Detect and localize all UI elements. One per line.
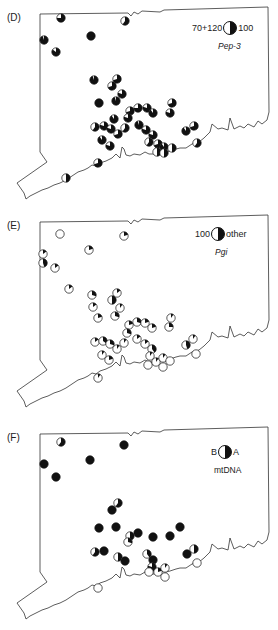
site-pie-marker [86, 456, 94, 464]
legend-title: Pgi [215, 247, 227, 257]
site-pie-marker [113, 289, 121, 297]
site-pie-marker [65, 285, 73, 293]
connecticut-outline [17, 215, 269, 407]
site-pie-marker [182, 341, 190, 349]
site-pie-marker [88, 291, 96, 299]
site-pie-marker [108, 506, 116, 514]
site-pie-marker [111, 312, 119, 320]
site-pie-marker [125, 321, 133, 329]
site-pie-marker [124, 114, 132, 122]
site-pie-marker [121, 124, 129, 132]
site-pie-marker [95, 99, 103, 107]
site-pie-marker [105, 356, 113, 364]
site-pie-marker [160, 149, 168, 157]
site-pie-marker [87, 32, 95, 40]
site-pie-marker [165, 323, 173, 331]
site-pie-marker [52, 473, 60, 481]
site-pie-marker [39, 259, 47, 267]
site-pie-marker [106, 340, 114, 348]
legend-right-label: A [233, 447, 239, 457]
site-pie-marker [149, 109, 157, 117]
site-pie-marker [189, 335, 197, 343]
site-pie-marker [90, 76, 98, 84]
site-pie-marker [100, 547, 108, 555]
site-pie-marker [161, 564, 169, 572]
connecticut-outline [17, 7, 269, 199]
site-pie-marker [118, 90, 126, 98]
site-pie-marker [85, 246, 93, 254]
map-panel-d: (D) 70+120 100 Pep-3 [0, 0, 278, 210]
site-pie-marker [110, 115, 118, 123]
site-pie-marker [57, 438, 65, 446]
site-pie-marker [39, 250, 47, 258]
legend-left-label: 100 [195, 229, 210, 239]
site-pie-marker [114, 499, 122, 507]
site-pie-marker [57, 14, 65, 22]
legend-right-label: 100 [238, 23, 253, 33]
site-pie-marker [193, 139, 201, 147]
site-pie-marker [176, 523, 184, 531]
site-pie-marker [144, 361, 152, 369]
legend-half-pie-icon [218, 445, 232, 459]
site-pie-marker [89, 303, 97, 311]
site-pie-marker [167, 314, 175, 322]
site-pie-marker [91, 338, 99, 346]
site-pie-marker [192, 350, 200, 358]
site-pie-marker [120, 232, 128, 240]
site-pie-marker [166, 109, 174, 117]
site-pie-marker [145, 138, 153, 146]
panel-label: (E) [7, 220, 20, 231]
site-pie-marker [112, 523, 120, 531]
site-pie-marker [94, 374, 102, 382]
legend-right-label: other [226, 229, 247, 239]
site-pie-marker [168, 144, 176, 152]
site-pie-marker [166, 532, 174, 540]
legend-pgi: 100 other [195, 227, 247, 241]
site-pie-marker [98, 351, 106, 359]
legend-left-label: B [211, 447, 217, 457]
site-pie-marker [113, 345, 121, 353]
site-pie-marker [149, 533, 157, 541]
site-pie-marker [159, 363, 167, 371]
site-pie-marker [56, 230, 64, 238]
legend-title: mtDNA [214, 465, 241, 475]
site-pie-marker [124, 538, 132, 546]
site-pie-marker [52, 48, 60, 56]
site-pie-marker [106, 142, 114, 150]
site-pie-marker [148, 324, 156, 332]
map-panel-e: (E) 100 other Pgi [0, 208, 278, 418]
site-pie-marker [51, 264, 59, 272]
site-pie-marker [190, 122, 198, 130]
map-panel-f: (F) B A mtDNA [0, 420, 278, 630]
site-pie-marker [121, 557, 129, 565]
legend-pep3: 70+120 100 [192, 21, 253, 35]
site-pie-marker [182, 127, 190, 135]
site-pie-marker [134, 529, 142, 537]
site-pie-marker [141, 340, 149, 348]
site-pie-marker [190, 545, 198, 553]
site-pie-marker [62, 174, 70, 182]
site-pie-marker [145, 568, 153, 576]
site-pie-marker [133, 335, 141, 343]
site-pie-marker [142, 126, 150, 134]
site-pie-marker [91, 123, 99, 131]
site-pie-marker [94, 159, 102, 167]
site-pie-marker [161, 573, 169, 581]
site-pie-marker [40, 36, 48, 44]
site-pie-marker [123, 329, 131, 337]
site-pie-marker [168, 99, 176, 107]
site-pie-marker [113, 75, 121, 83]
site-pie-marker [134, 104, 142, 112]
site-pie-marker [141, 319, 149, 327]
site-pie-marker [166, 357, 174, 365]
site-pie-marker [94, 584, 102, 592]
legend-half-pie-icon [223, 21, 237, 35]
site-pie-marker [193, 559, 201, 567]
site-pie-marker [107, 125, 115, 133]
site-pie-marker [40, 460, 48, 468]
site-pie-marker [98, 136, 106, 144]
panel-label: (F) [7, 432, 20, 443]
site-pie-marker [114, 130, 122, 138]
site-pie-marker [183, 550, 191, 558]
site-pie-marker [133, 318, 141, 326]
